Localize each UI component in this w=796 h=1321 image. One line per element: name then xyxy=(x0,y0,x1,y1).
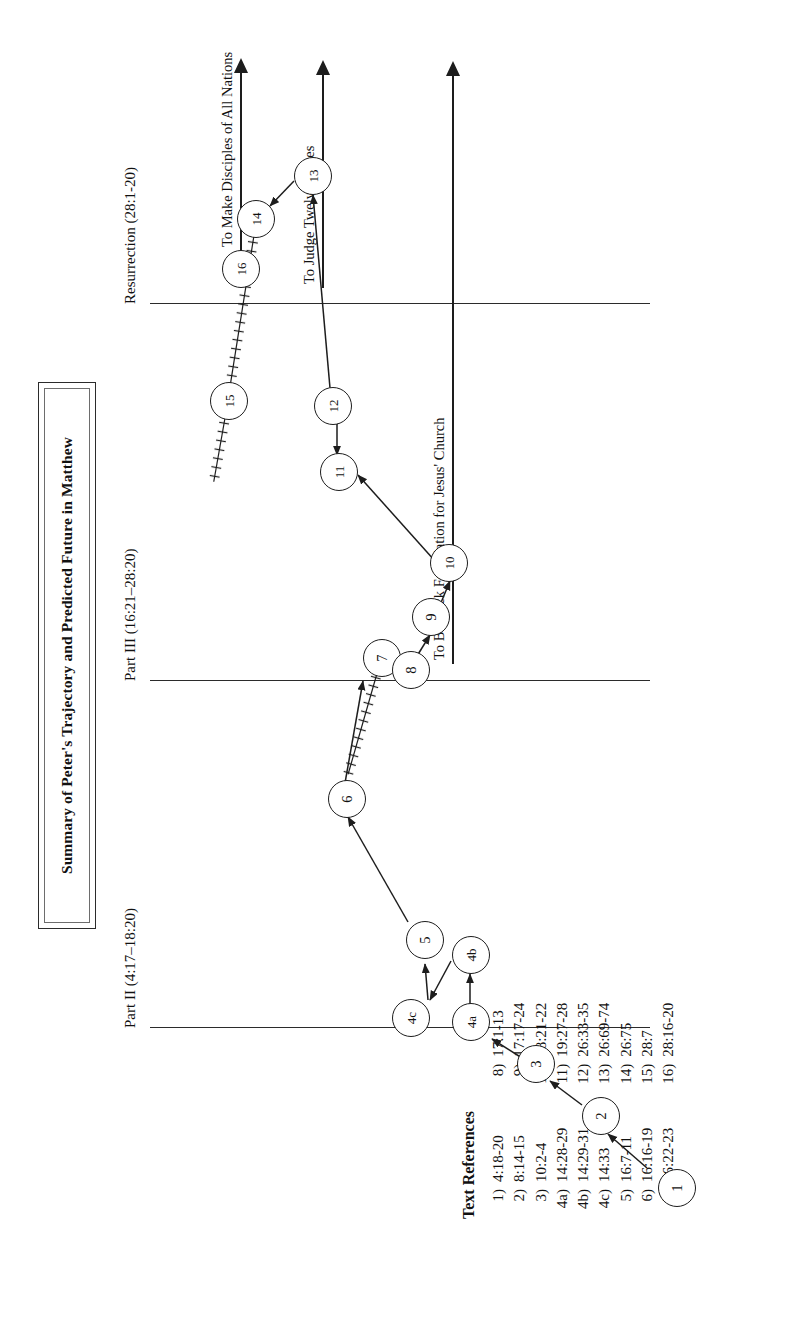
edge-12-13 xyxy=(313,195,330,388)
node-4a[interactable]: 4a xyxy=(452,1003,490,1041)
edge-1-2 xyxy=(608,1134,647,1168)
node-16[interactable]: 16 xyxy=(222,250,260,288)
edge-10-11 xyxy=(358,475,435,561)
edge-4c-5 xyxy=(425,964,428,1000)
node-15[interactable]: 15 xyxy=(210,382,248,420)
node-1[interactable]: 1 xyxy=(658,1169,696,1207)
node-4b[interactable]: 4b xyxy=(452,936,490,974)
node-9[interactable]: 9 xyxy=(412,598,450,636)
figure-page: Summary of Peter's Trajectory and Predic… xyxy=(0,0,796,1321)
node-2[interactable]: 2 xyxy=(582,1097,620,1135)
node-4c[interactable]: 4c xyxy=(392,999,430,1037)
edge-5-6 xyxy=(348,817,408,922)
edge-group-hatched xyxy=(209,228,387,775)
node-3[interactable]: 3 xyxy=(517,1045,555,1083)
node-5[interactable]: 5 xyxy=(406,921,444,959)
node-11[interactable]: 11 xyxy=(320,453,358,491)
node-8[interactable]: 8 xyxy=(392,651,430,689)
edge-4b-4c xyxy=(430,961,451,1000)
edge-13-14 xyxy=(270,181,294,206)
node-12[interactable]: 12 xyxy=(314,387,352,425)
figure-canvas: Summary of Peter's Trajectory and Predic… xyxy=(30,41,766,1281)
node-6[interactable]: 6 xyxy=(328,780,366,818)
edge-2-3 xyxy=(550,1081,582,1105)
edge-3-4a xyxy=(492,1039,522,1058)
node-14[interactable]: 14 xyxy=(237,200,275,238)
node-10[interactable]: 10 xyxy=(430,544,468,582)
node-13[interactable]: 13 xyxy=(294,157,332,195)
